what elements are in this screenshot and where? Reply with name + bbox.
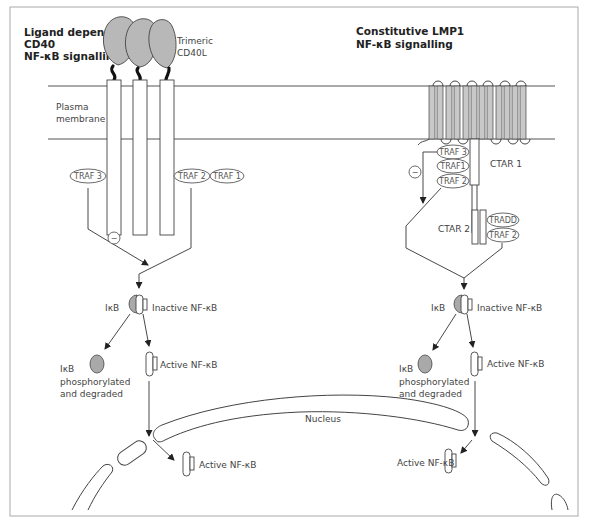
lmp1-transmembrane-domains [418, 81, 530, 145]
ikb-degraded-left [90, 355, 104, 373]
degraded-right-line3: and degraded [399, 389, 462, 399]
traf1-right-label: TRAF1 [439, 162, 465, 171]
right-title-line2: NF-κB signalling [356, 38, 453, 50]
ctar2-label: CTAR 2 [438, 224, 470, 234]
left-title-line2: CD40 [24, 38, 55, 50]
right-panel-lmp1: Constitutive LMP1 NF-κB signalling [356, 25, 544, 473]
degrade-arrow-left [105, 314, 130, 349]
inhibit-symbol-right-label: − [412, 168, 419, 177]
cd40l-stalk-1 [112, 66, 115, 80]
nfkb-active-right-a [471, 352, 478, 376]
activate-arrow-right [467, 314, 473, 347]
nuclear-entry-right [461, 440, 472, 453]
traf3-left-label: TRAF 3 [73, 172, 102, 181]
nfkb-nuclear-left-b [190, 457, 194, 470]
traf2-ctar2-label: TRAF 2 [488, 231, 517, 240]
traf3-right-label: TRAF 3 [438, 148, 467, 157]
nuclear-active-label-right: Active NF-κB [397, 458, 454, 468]
active-nfkb-label-left: Active NF-κB [160, 360, 217, 370]
degraded-left-line2: phosphorylated [60, 377, 130, 387]
cd40l-ligand-3 [149, 20, 176, 68]
ctar2-box-a [472, 210, 478, 244]
nuclear-envelope-left [72, 464, 113, 510]
nfkb-active-left-a [146, 352, 153, 376]
membrane-label-line1: Plasma [56, 102, 88, 112]
inactive-nfkb-label-right: Inactive NF-κB [477, 303, 542, 313]
ctar2-activate-path [464, 243, 502, 289]
degrade-arrow-right [433, 314, 456, 350]
inhibit-symbol-left-label: − [111, 234, 118, 243]
degraded-left-line1: IκB [60, 364, 74, 374]
cd40-receptor-1 [107, 80, 121, 235]
nucleus: Nucleus [72, 395, 568, 510]
nfkb-nuclear-left-a [183, 452, 190, 476]
nfkb-inactive-left-a [136, 295, 143, 314]
activate-arrow-left [143, 314, 149, 346]
traf1-left-label: TRAF 1 [212, 172, 241, 181]
cd40-lmp1-nfkb-diagram: Ligand dependent CD40 NF-κB signalling T… [0, 0, 589, 525]
ctar2-box-b [480, 210, 486, 244]
nucleus-label: Nucleus [305, 414, 341, 424]
traf2-left-label: TRAF 2 [177, 172, 206, 181]
inactive-nfkb-label-left: Inactive NF-κB [152, 303, 217, 313]
nuclear-entry-left [153, 440, 174, 460]
cd40l-stalk-3 [166, 68, 169, 80]
nuclear-active-label-left: Active NF-κB [199, 460, 256, 470]
nfkb-inactive-left-b [143, 299, 147, 310]
traf2-right-label: TRAF 2 [438, 177, 467, 186]
active-nfkb-label-right: Active NF-κB [487, 359, 544, 369]
ikb-label-right: IκB [431, 303, 445, 313]
figure-frame [10, 7, 578, 516]
traf3-inhibit-path-right [423, 152, 437, 203]
nuclear-envelope-right [490, 433, 549, 485]
ikb-label-left: IκB [105, 303, 119, 313]
nuclear-envelope-segment [115, 438, 149, 468]
right-title-line1: Constitutive LMP1 [356, 25, 464, 37]
nfkb-active-left-b [153, 357, 157, 370]
degraded-right-line2: phosphorylated [399, 377, 469, 387]
degraded-left-line3: and degraded [60, 389, 123, 399]
nfkb-inactive-right-a [461, 295, 468, 314]
ctar1-box [470, 139, 479, 185]
degraded-right-line1: IκB [399, 364, 413, 374]
tradd-label: TRADD [488, 216, 517, 225]
cd40-receptor-2 [133, 80, 147, 235]
nfkb-inactive-right-b [468, 299, 472, 310]
membrane-label-line2: membrane [56, 114, 106, 124]
ikb-degraded-right [418, 355, 432, 373]
cd40l-stalk-2 [137, 68, 140, 80]
ligand-label-line2: CD40L [177, 48, 207, 58]
nuclear-envelope-right-bottom [551, 494, 568, 510]
cd40-receptor-3 [160, 80, 174, 235]
nfkb-active-right-b [478, 357, 482, 370]
ctar1-label: CTAR 1 [490, 159, 522, 169]
ligand-label-line1: Trimeric [176, 36, 213, 46]
